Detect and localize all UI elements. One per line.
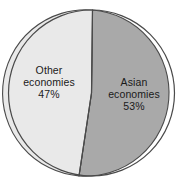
pie-label-other-economies: Other economies 47% [13, 64, 85, 100]
pie-label-other-line2: economies [13, 76, 85, 88]
pie-label-other-line1: Other [13, 64, 85, 76]
pie-chart-figure: Other economies 47% Asian economies 53% [0, 0, 185, 187]
pie-label-other-percent: 47% [13, 88, 85, 100]
pie-label-asian-line1: Asian [98, 76, 170, 88]
pie-label-asian-line2: economies [98, 88, 170, 100]
pie-label-asian-percent: 53% [98, 100, 170, 112]
pie-label-asian-economies: Asian economies 53% [98, 76, 170, 112]
